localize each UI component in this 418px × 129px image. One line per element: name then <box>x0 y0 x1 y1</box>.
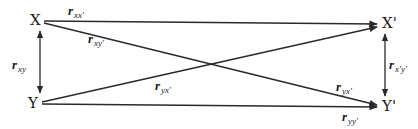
node-y: Y <box>28 96 38 111</box>
label-r-yx-prime: ryx' <box>155 79 171 92</box>
edge-y-to-yprime <box>42 104 377 107</box>
label-r-yy-prime: ryy' <box>342 110 358 123</box>
label-r-xx-prime: rxx' <box>68 4 84 17</box>
node-x-prime: X' <box>382 16 397 31</box>
label-r-xy: rxy <box>12 58 26 71</box>
label-r-x-prime-y-prime: rx'y' <box>389 58 407 71</box>
cross-lagged-diagram: X Y X' Y' rxx' rxy' ryx' ryx' ryy' rxy r… <box>0 0 418 129</box>
node-y-prime: Y' <box>382 99 396 114</box>
label-r-yx-prime-right: ryx' <box>336 80 352 93</box>
node-x: X <box>30 13 41 28</box>
label-r-xy-prime: rxy' <box>88 32 104 45</box>
edge-x-to-xprime <box>44 21 377 24</box>
